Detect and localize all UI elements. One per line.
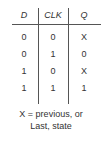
- caption-line-1: X = previous, or: [0, 108, 102, 120]
- table-cell: 1: [40, 83, 66, 93]
- column-divider: [38, 8, 39, 104]
- table-cell: 0: [71, 49, 97, 59]
- column-divider: [68, 8, 69, 104]
- header-q: Q: [71, 10, 97, 20]
- header-d: D: [11, 10, 37, 20]
- table-cell: 0: [40, 32, 66, 42]
- table-cell: 1: [40, 49, 66, 59]
- header-clk: CLK: [40, 10, 66, 20]
- table-cell: 1: [11, 83, 37, 93]
- table-cell: X: [71, 66, 97, 76]
- table-cell: 0: [11, 49, 37, 59]
- caption-line-2: Last, state: [0, 120, 102, 132]
- table-cell: 0: [11, 32, 37, 42]
- header-divider: [12, 24, 101, 25]
- table-cell: 1: [71, 83, 97, 93]
- table-cell: X: [71, 32, 97, 42]
- table-cell: 0: [40, 66, 66, 76]
- table-cell: 1: [11, 66, 37, 76]
